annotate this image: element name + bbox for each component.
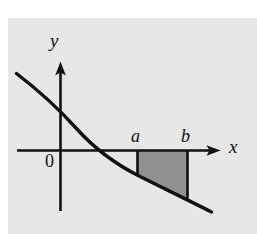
shaded-region [138,151,188,200]
bound-label-b: b [181,127,190,145]
origin-label: 0 [45,152,54,170]
bound-label-a: a [131,127,140,145]
figure-root: y x 0 a b [0,0,257,234]
x-axis-label: x [229,137,237,156]
y-axis-label: y [50,31,58,50]
figure-canvas [0,0,257,234]
